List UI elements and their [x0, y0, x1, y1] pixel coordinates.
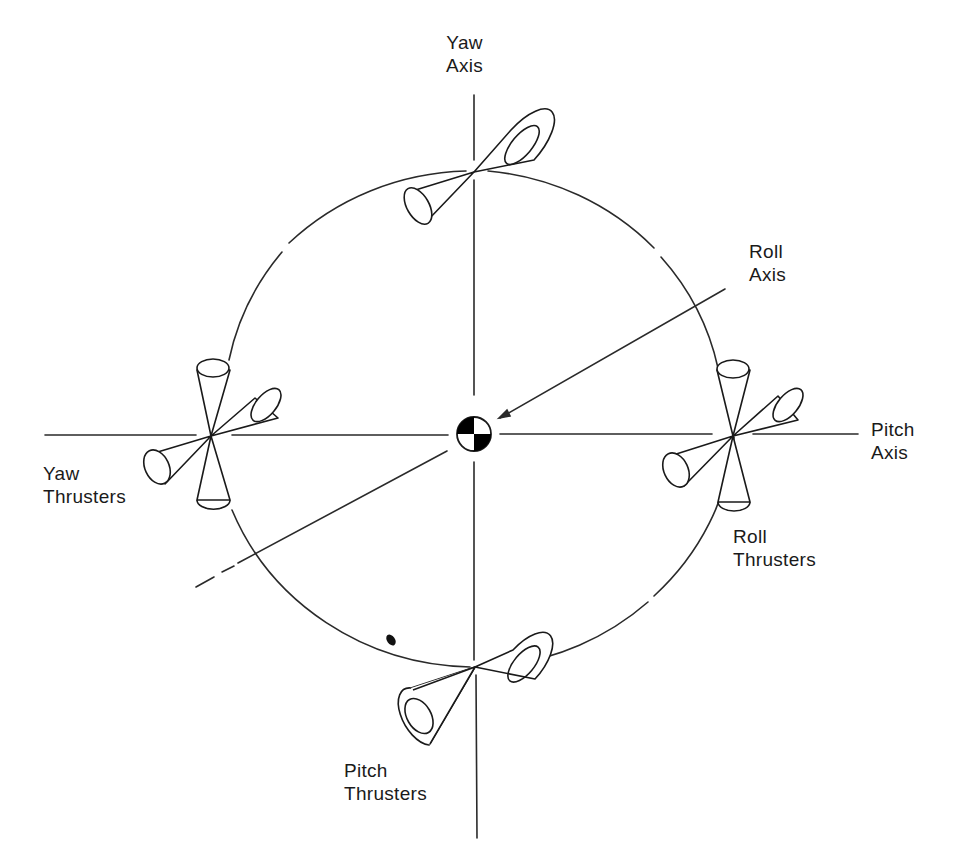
- yaw-thrusters-label-line1: Yaw: [43, 462, 126, 485]
- roll-thrusters-icon: [658, 360, 809, 511]
- yaw-thrusters-label: Yaw Thrusters: [43, 462, 126, 508]
- yaw-thrusters-icon: [139, 359, 287, 509]
- top-thruster-pair-icon: [398, 109, 554, 229]
- roll-axis-label-line1: Roll: [749, 240, 786, 263]
- roll-thrusters-label-line1: Roll: [733, 525, 816, 548]
- roll-axis-label-line2: Axis: [749, 263, 786, 286]
- pitch-thrusters-label-line1: Pitch: [344, 759, 427, 782]
- roll-axis-dash: [222, 566, 234, 572]
- roll-thrusters-label-line2: Thrusters: [733, 548, 816, 571]
- roll-thrusters-label: Roll Thrusters: [733, 525, 816, 571]
- pitch-thrusters-label-line2: Thrusters: [344, 782, 427, 805]
- pitch-thrusters-label: Pitch Thrusters: [344, 759, 427, 805]
- yaw-axis-label-line2: Axis: [446, 54, 483, 77]
- yaw-axis-label-line1: Yaw: [446, 31, 483, 54]
- roll-axis-dash: [196, 577, 214, 587]
- spacecraft-attitude-diagram: [0, 0, 967, 864]
- ink-mark: [384, 633, 397, 647]
- center-of-mass-icon: [457, 417, 491, 451]
- yaw-axis-label: Yaw Axis: [446, 31, 483, 77]
- pitch-axis-label: Pitch Axis: [871, 418, 915, 464]
- pitch-axis-label-line2: Axis: [871, 441, 915, 464]
- roll-axis-line: [238, 451, 447, 563]
- yaw-axis-line: [476, 675, 477, 838]
- roll-axis-line: [500, 289, 725, 418]
- roll-axis-arrowhead: [499, 410, 510, 418]
- yaw-thrusters-label-line2: Thrusters: [43, 485, 126, 508]
- pitch-axis-label-line1: Pitch: [871, 418, 915, 441]
- roll-axis-label: Roll Axis: [749, 240, 786, 286]
